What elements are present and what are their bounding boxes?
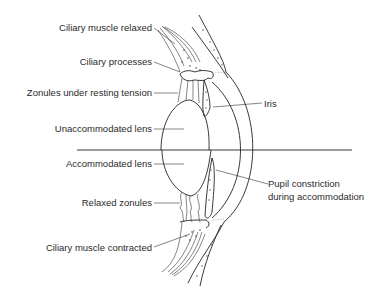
- ciliary-processes-upper: [180, 71, 213, 81]
- unaccommodated-lens: [161, 100, 209, 150]
- cornea-outer: [224, 72, 253, 222]
- label-relaxed-zonules: Relaxed zonules: [82, 197, 152, 208]
- ciliary-muscle-relaxed: [158, 26, 201, 72]
- ciliary-muscle-contracted: [162, 222, 205, 276]
- label-zonules-resting-tension: Zonules under resting tension: [27, 87, 152, 98]
- label-ciliary-muscle-relaxed: Ciliary muscle relaxed: [59, 22, 152, 33]
- label-pupil-constriction-line1: Pupil constriction: [268, 178, 340, 189]
- label-ciliary-muscle-contracted: Ciliary muscle contracted: [46, 242, 152, 253]
- iris-lower: [205, 158, 214, 218]
- iris-upper: [203, 80, 210, 117]
- relaxed-zonules: [180, 192, 200, 222]
- eye-accommodation-diagram: Ciliary muscle relaxed Ciliary processes…: [0, 0, 385, 300]
- label-unaccommodated-lens: Unaccommodated lens: [55, 123, 152, 134]
- label-iris: Iris: [264, 98, 277, 109]
- label-accommodated-lens: Accommodated lens: [66, 158, 152, 169]
- label-ciliary-processes: Ciliary processes: [80, 56, 153, 67]
- label-pupil-constriction-line2: during accommodation: [268, 191, 364, 202]
- zonules-resting-tension: [178, 78, 199, 103]
- accommodated-lens: [162, 150, 211, 196]
- ciliary-processes-lower: [180, 220, 209, 228]
- sclera-upper: [192, 15, 228, 78]
